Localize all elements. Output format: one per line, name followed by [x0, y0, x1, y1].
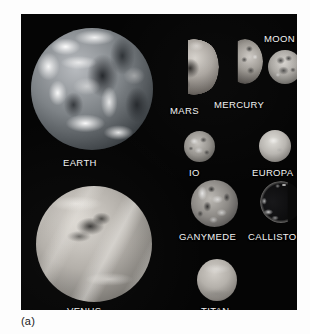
mercury-surface-texture — [227, 39, 263, 84]
figure-caption: (a) — [21, 316, 35, 327]
moon-label: MOON — [264, 34, 295, 44]
mercury-label: MERCURY — [214, 100, 264, 110]
earth-surface-texture — [31, 28, 153, 150]
io-disk — [184, 131, 215, 162]
earth-disk — [31, 28, 153, 150]
titan-haze-texture — [197, 259, 237, 301]
europa-label: EUROPA — [252, 168, 294, 178]
earth-label: EARTH — [63, 158, 97, 168]
moon-disk — [268, 50, 297, 84]
europa-disk — [259, 130, 291, 162]
titan-label: TITAN — [201, 306, 230, 310]
mars-terminator — [169, 36, 219, 98]
europa-surface-texture — [259, 130, 291, 162]
callisto-label: CALLISTO — [248, 232, 297, 242]
callisto-disk — [260, 181, 297, 223]
mars-label: MARS — [170, 106, 199, 116]
callisto-crescent-limb — [260, 181, 297, 223]
ganymede-label: GANYMEDE — [179, 232, 236, 242]
mars-disk — [169, 36, 219, 98]
mercury-disk — [227, 39, 263, 84]
venus-label: VENUS — [67, 306, 101, 310]
figure-root: EARTH MARS MERCURY MOON — [0, 0, 310, 334]
io-surface-texture — [184, 131, 215, 162]
ganymede-disk — [191, 180, 238, 227]
venus-disk — [36, 186, 152, 302]
io-label: IO — [189, 168, 200, 178]
venus-cloud-texture — [36, 186, 152, 302]
titan-disk — [197, 259, 237, 301]
photographic-plate: EARTH MARS MERCURY MOON — [21, 14, 297, 310]
ganymede-surface-texture — [191, 180, 238, 227]
callisto-bright-speck — [282, 184, 286, 186]
moon-surface-texture — [268, 50, 297, 84]
